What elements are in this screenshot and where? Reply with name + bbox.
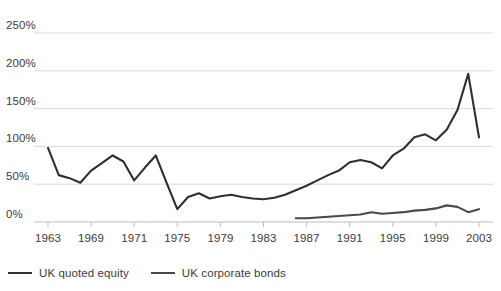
x-axis-tick-label: 1969 — [78, 232, 104, 244]
y-axis-tick-label: 200% — [6, 57, 36, 69]
x-axis-tick-label: 1999 — [423, 232, 449, 244]
line-uk-quoted-equity — [48, 74, 479, 209]
y-axis-tick-label: 100% — [6, 132, 36, 144]
y-axis-tick-label: 0% — [6, 208, 23, 220]
legend-label-equity: UK quoted equity — [39, 267, 129, 279]
x-axis-tick-label: 1971 — [121, 232, 147, 244]
legend-label-bonds: UK corporate bonds — [182, 267, 286, 279]
x-axis-tick-label: 1995 — [380, 232, 406, 244]
line-uk-corporate-bonds — [296, 205, 479, 218]
x-axis-tick-label: 1991 — [337, 232, 363, 244]
chart-container: 250%200%150%100%50%0% 196319691971197519… — [0, 0, 501, 291]
x-axis-tick-label: 1987 — [294, 232, 320, 244]
x-axis-tick-label: 1963 — [35, 232, 61, 244]
y-axis-tick-label: 250% — [6, 19, 36, 31]
x-axis-tick-label: 1975 — [164, 232, 190, 244]
legend-swatch-equity-icon — [8, 272, 32, 274]
legend-item-uk-corporate-bonds[interactable]: UK corporate bonds — [151, 267, 286, 279]
x-axis-ticks — [48, 222, 479, 227]
legend-swatch-bonds-icon — [151, 272, 175, 274]
chart-legend: UK quoted equity UK corporate bonds — [8, 262, 493, 284]
x-axis-tick-label: 2003 — [466, 232, 492, 244]
y-axis-tick-label: 50% — [6, 170, 29, 182]
legend-item-uk-quoted-equity[interactable]: UK quoted equity — [8, 267, 129, 279]
x-axis-tick-label: 1983 — [251, 232, 277, 244]
x-axis-tick-label: 1979 — [207, 232, 233, 244]
chart-plot-area — [0, 0, 501, 291]
y-axis-tick-label: 150% — [6, 95, 36, 107]
